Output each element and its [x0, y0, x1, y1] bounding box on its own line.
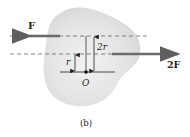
- dimension-2r-label: 2r: [96, 42, 108, 52]
- force-2f-label: 2F: [167, 59, 181, 70]
- force-f-label: F: [28, 20, 35, 31]
- rigid-body: [44, 7, 141, 106]
- dimension-r-label: r: [66, 57, 71, 67]
- figure-caption: (b): [80, 118, 92, 128]
- point-o: [84, 70, 88, 74]
- rigid-body-diagram: F 2F 2r r O (b): [0, 0, 190, 137]
- point-o-label: O: [82, 78, 90, 88]
